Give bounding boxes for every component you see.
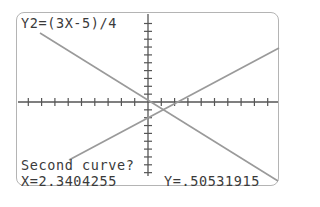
- curve-y2-line: [69, 48, 279, 160]
- y-coordinate-readout: Y=.50531915: [164, 175, 260, 189]
- x-coordinate-readout: X=2.3404255: [21, 175, 117, 189]
- equation-label: Y2=(3X-5)/4: [21, 17, 117, 31]
- second-curve-prompt: Second curve?: [21, 159, 134, 173]
